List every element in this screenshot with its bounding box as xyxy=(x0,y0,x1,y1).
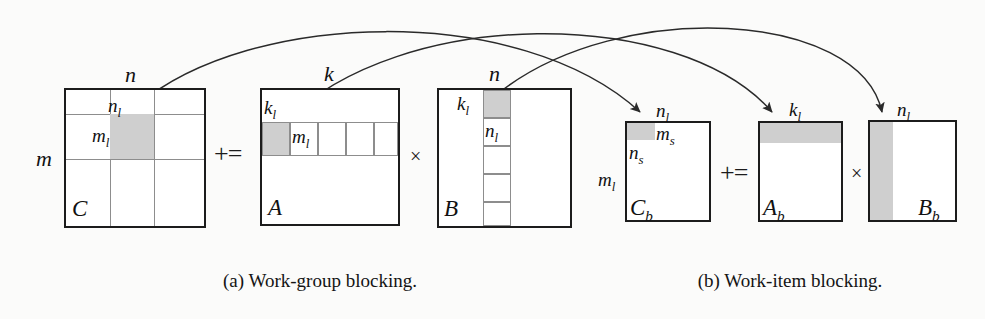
b-strip-cell-3 xyxy=(483,174,511,202)
matrix-bb xyxy=(868,120,957,222)
matrix-cb-name: Cb xyxy=(630,196,653,223)
label-cb-ns-sub: s xyxy=(639,152,644,167)
label-b-kl: kl xyxy=(457,94,469,118)
label-bb-nl-top: nl xyxy=(897,100,910,124)
b-strip-cell-0 xyxy=(483,90,511,118)
label-bb-nl-top-base: n xyxy=(897,99,907,120)
label-b-nl: nl xyxy=(485,121,498,145)
matrix-ab-name-base: A xyxy=(763,195,777,220)
label-a-ml: ml xyxy=(292,127,309,151)
label-c-nl-sub: l xyxy=(118,105,122,120)
label-c-n: n xyxy=(125,64,136,86)
cb-shaded-block xyxy=(627,123,655,140)
label-a-ml-base: m xyxy=(292,126,306,147)
label-cb-ml-left-sub: l xyxy=(612,179,616,194)
label-b-n: n xyxy=(489,63,500,85)
operator-plus-equals-b: += xyxy=(720,160,747,186)
label-c-ml-base: m xyxy=(92,125,106,146)
matrix-cb-name-base: C xyxy=(630,195,645,220)
label-b-nl-base: n xyxy=(485,120,495,141)
label-cb-ns-base: n xyxy=(629,142,639,163)
label-cb-ms-sub: s xyxy=(670,133,675,148)
c-gridline-h2 xyxy=(66,159,204,160)
matrix-bb-name-sub: b xyxy=(932,207,940,224)
label-cb-nl-top-base: n xyxy=(656,100,666,121)
label-bb-nl-top-sub: l xyxy=(907,109,911,124)
caption-panel-b: (b) Work-item blocking. xyxy=(650,270,930,292)
label-c-ml: ml xyxy=(92,126,109,150)
a-strip-cell-4 xyxy=(374,122,398,156)
b-strip-cell-4 xyxy=(483,202,511,226)
matrix-b-name: B xyxy=(444,197,458,220)
label-c-nl-base: n xyxy=(108,95,118,116)
label-cb-ms-base: m xyxy=(656,123,670,144)
operator-times-b: × xyxy=(851,163,862,183)
b-strip-cell-2 xyxy=(483,146,511,174)
matrix-ab-name: Ab xyxy=(763,196,785,223)
matrix-c-name: C xyxy=(72,197,87,220)
label-a-ml-sub: l xyxy=(306,136,310,151)
label-a-kl-sub: l xyxy=(272,107,276,122)
label-cb-ms: ms xyxy=(656,124,675,148)
label-cb-ml-left-base: m xyxy=(598,169,612,190)
label-cb-nl-top: nl xyxy=(656,101,669,125)
label-a-kl: kl xyxy=(264,98,276,122)
label-b-nl-sub: l xyxy=(495,130,499,145)
label-cb-ns: ns xyxy=(629,143,644,167)
figure-work-group-and-work-item-blocking: C n m nl ml += A k kl ml × B n kl nl xyxy=(0,0,985,319)
bb-shaded-band xyxy=(870,122,893,220)
operator-times-a: × xyxy=(410,146,421,166)
a-strip-cell-3 xyxy=(346,122,374,156)
c-shaded-cell xyxy=(110,114,154,159)
a-strip-cell-2 xyxy=(318,122,346,156)
label-c-ml-sub: l xyxy=(106,135,110,150)
matrix-a-name: A xyxy=(268,196,282,219)
matrix-bb-name: Bb xyxy=(918,196,940,223)
label-ab-kl-top-sub: l xyxy=(797,109,801,124)
label-b-kl-sub: l xyxy=(465,103,469,118)
label-c-m: m xyxy=(36,148,52,170)
label-c-nl: nl xyxy=(108,96,121,120)
matrix-ab-name-sub: b xyxy=(777,207,785,224)
c-gridline-v2 xyxy=(154,90,155,226)
label-a-k: k xyxy=(324,63,334,85)
matrix-bb-name-base: B xyxy=(918,195,932,220)
caption-panel-a: (a) Work-group blocking. xyxy=(180,270,460,292)
label-cb-ml-left: ml xyxy=(598,170,615,194)
matrix-cb-name-sub: b xyxy=(645,207,653,224)
a-strip-cell-0 xyxy=(262,122,290,156)
label-ab-kl-top: kl xyxy=(789,100,801,124)
operator-plus-equals-a: += xyxy=(214,141,241,167)
ab-shaded-band xyxy=(760,123,841,143)
